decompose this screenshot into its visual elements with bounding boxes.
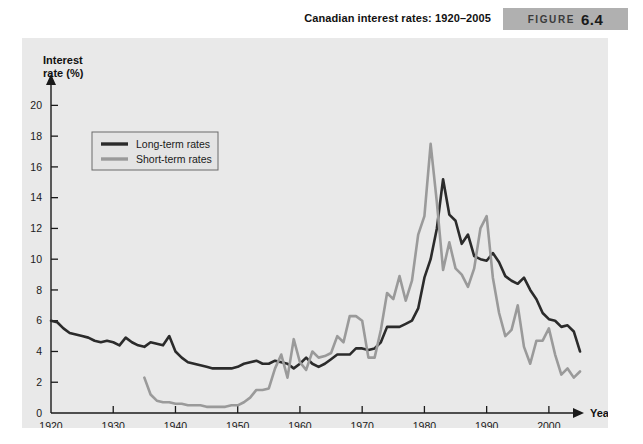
x-tick-label: 1950	[226, 420, 250, 428]
figure-badge-word: FIGURE	[528, 14, 575, 25]
y-tick-label: 14	[30, 191, 42, 203]
x-tick-label: 1990	[475, 420, 499, 428]
y-tick-label: 18	[30, 130, 42, 142]
y-tick-label: 6	[36, 314, 42, 326]
y-axis-title-line2: rate (%)	[43, 67, 84, 79]
figure-header: Canadian interest rates: 1920–2005 FIGUR…	[0, 0, 643, 38]
x-tick-label: 1960	[288, 420, 312, 428]
interest-rate-line-chart: 02468101214161820 1920193019401950196019…	[22, 38, 608, 428]
series-line-long-term	[51, 179, 580, 368]
chart-legend: Long-term ratesShort-term rates	[92, 132, 218, 170]
figure-badge-number: 6.4	[581, 11, 603, 28]
y-axis-ticks: 02468101214161820	[30, 99, 58, 419]
y-tick-label: 12	[30, 222, 42, 234]
x-tick-label: 1930	[102, 420, 126, 428]
y-axis-title: Interest	[43, 54, 83, 66]
figure-title: Canadian interest rates: 1920–2005	[304, 12, 491, 24]
x-tick-label: 1940	[164, 420, 188, 428]
x-tick-label: 1970	[350, 420, 374, 428]
x-tick-label: 2000	[537, 420, 561, 428]
y-tick-label: 8	[36, 284, 42, 296]
x-tick-label: 1980	[413, 420, 437, 428]
y-tick-label: 20	[30, 99, 42, 111]
y-tick-label: 16	[30, 161, 42, 173]
legend-label: Long-term rates	[136, 138, 210, 150]
legend-label: Short-term rates	[136, 153, 212, 165]
chart-panel: 02468101214161820 1920193019401950196019…	[22, 38, 608, 428]
data-series-group	[51, 144, 580, 407]
y-tick-label: 2	[36, 376, 42, 388]
x-axis-title: Year	[590, 407, 608, 419]
y-tick-label: 0	[36, 407, 42, 419]
x-axis-ticks: 192019301940195019601970198019902000	[39, 406, 560, 428]
y-tick-label: 10	[30, 253, 42, 265]
figure-badge: FIGURE 6.4	[503, 8, 628, 30]
y-tick-label: 4	[36, 345, 42, 357]
x-tick-label: 1920	[39, 420, 63, 428]
